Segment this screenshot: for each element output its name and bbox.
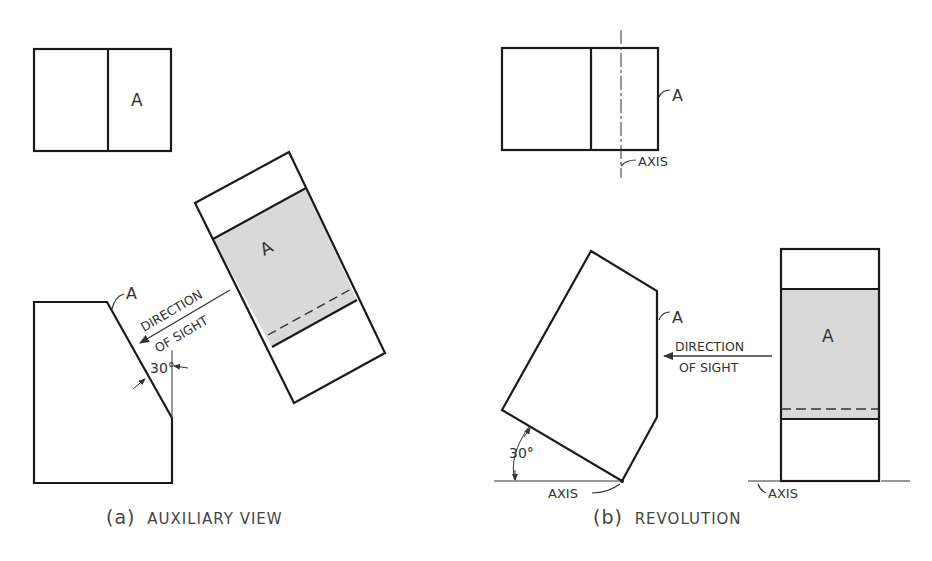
side-view-b: A AXIS — [748, 249, 910, 501]
technical-drawing: A A 30° DIRECTION OF SIGHT — [0, 0, 932, 561]
revolved-front-view: A 30° AXIS — [494, 251, 683, 501]
direction-label-b-line2: OF SIGHT — [679, 360, 739, 375]
surface-label-b-top: A — [672, 86, 683, 105]
surface-label-a-top: A — [131, 90, 143, 110]
axis-label-b-top: AXIS — [638, 154, 668, 169]
surface-label-b-side: A — [822, 326, 834, 346]
angle-label-b: 30° — [509, 445, 534, 461]
angle-label-a: 30° — [150, 360, 175, 376]
direction-label-b-line1: DIRECTION — [675, 339, 744, 354]
axis-label-b-side: AXIS — [768, 486, 798, 501]
panel-revolution: A AXIS A 30° AXIS DIRECTION OF SIGHT — [494, 30, 910, 528]
direction-of-sight-b: DIRECTION OF SIGHT — [664, 339, 772, 375]
top-view-b: A AXIS — [502, 30, 683, 178]
caption-a-text: AUXILIARY VIEW — [147, 510, 282, 528]
caption-b: (b) REVOLUTION — [593, 506, 742, 528]
caption-a: (a) AUXILIARY VIEW — [106, 506, 283, 528]
panel-auxiliary-view: A A 30° DIRECTION OF SIGHT — [34, 49, 385, 528]
caption-b-text: REVOLUTION — [635, 510, 742, 528]
caption-b-prefix: (b) — [593, 506, 623, 528]
caption-a-prefix: (a) — [106, 506, 135, 528]
auxiliary-view: A — [195, 152, 385, 403]
top-view-a: A — [34, 49, 171, 151]
axis-label-b-front: AXIS — [548, 486, 578, 501]
surface-label-a-front: A — [126, 284, 137, 303]
direction-of-sight-a: DIRECTION OF SIGHT — [138, 287, 230, 356]
surface-label-b-front: A — [672, 308, 683, 327]
